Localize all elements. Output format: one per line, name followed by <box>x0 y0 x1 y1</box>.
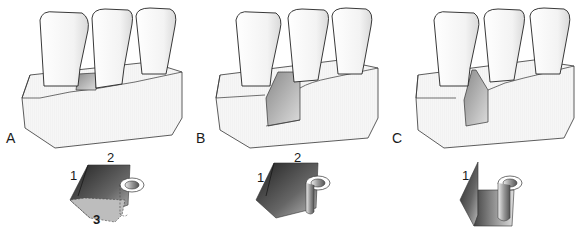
panel-c: C 1 <box>384 0 576 234</box>
block-label-1: 1 <box>257 170 264 185</box>
block-label-2: 2 <box>107 150 114 165</box>
block-label-2: 2 <box>294 150 301 165</box>
prep-block-b <box>190 0 382 234</box>
panel-b: B 1 2 <box>190 0 382 234</box>
block-label-1: 1 <box>462 168 469 183</box>
prep-block-a <box>0 0 192 234</box>
block-label-1: 1 <box>70 168 77 183</box>
prep-block-c <box>384 0 576 234</box>
block-label-3: 3 <box>93 212 100 227</box>
panel-a: A 1 2 3 <box>0 0 192 234</box>
